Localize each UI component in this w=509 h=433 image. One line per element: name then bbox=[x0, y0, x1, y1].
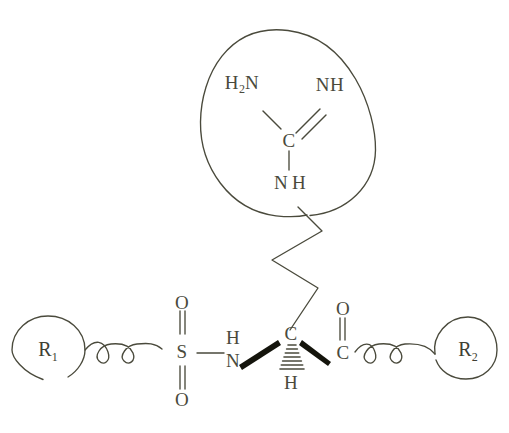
r1-letter: R bbox=[38, 338, 51, 360]
chemical-structure-figure: H2N NH C N H R1 O S O H N C H O C R2 bbox=[0, 0, 509, 433]
hashed-bond-stereocenter-h bbox=[280, 345, 304, 369]
bond-c-double-nh-b bbox=[302, 115, 326, 139]
coil-linker-right bbox=[355, 344, 435, 363]
guanidinium-amine-left-label: H2N bbox=[225, 73, 259, 96]
zigzag-linker-chain bbox=[272, 207, 322, 330]
guanidinium-amine-bottom-h-label: H bbox=[292, 173, 306, 192]
guanidinium-amine-bottom-n-label: N bbox=[274, 173, 288, 192]
sulfur-label: S bbox=[176, 342, 187, 361]
r1-subscript: 1 bbox=[52, 350, 58, 364]
amine-left-n: N bbox=[245, 72, 259, 93]
carbonyl-carbon-label: C bbox=[336, 343, 349, 362]
sulfonyl-oxygen-bottom-label: O bbox=[175, 390, 189, 409]
r2-substituent-label: R2 bbox=[458, 339, 477, 363]
sulfonyl-oxygen-top-label: O bbox=[175, 293, 189, 312]
bold-wedge-stereocenter-to-carbonyl bbox=[299, 340, 331, 366]
r1-substituent-label: R1 bbox=[38, 339, 57, 363]
amide-nitrogen-label: N bbox=[226, 351, 240, 370]
structure-drawing-canvas bbox=[0, 0, 509, 433]
guanidinium-central-carbon-label: C bbox=[282, 131, 295, 150]
stereocenter-hydrogen-label: H bbox=[284, 373, 298, 392]
carbonyl-oxygen-label: O bbox=[336, 299, 350, 318]
guanidinium-imine-right-label: NH bbox=[316, 75, 344, 94]
amide-nitrogen-h-label: H bbox=[226, 328, 240, 347]
bold-wedge-n-to-stereocenter bbox=[239, 340, 281, 370]
r2-letter: R bbox=[458, 338, 471, 360]
bond-c-nh2 bbox=[263, 111, 281, 129]
stereocenter-carbon-label: C bbox=[284, 324, 297, 343]
r2-subscript: 2 bbox=[472, 350, 478, 364]
coil-linker-left bbox=[85, 342, 162, 363]
bond-c-double-nh-a bbox=[296, 109, 320, 133]
amine-left-h: H bbox=[225, 72, 239, 93]
